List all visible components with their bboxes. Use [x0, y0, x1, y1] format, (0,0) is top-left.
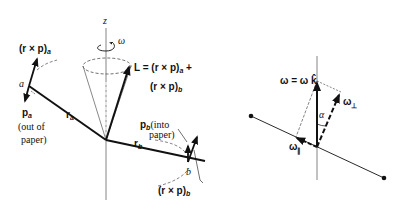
left-diagram: z ω L = (r × p)a + (r × p)b [18, 15, 205, 200]
p-a-vector [25, 86, 29, 101]
omega-rotation-label: ω [118, 35, 125, 46]
construction-line-left [296, 81, 317, 137]
p-b-note-line2: paper) [149, 129, 175, 141]
construction-line-top [317, 81, 341, 92]
r-b-label: rb [134, 138, 143, 150]
p-a-note-line1: (out of [18, 121, 46, 133]
L-label-line2: (r × p)b [150, 81, 183, 93]
diagram-canvas: z ω L = (r × p)a + (r × p)b [0, 0, 405, 211]
rxp-a-vector [29, 59, 37, 86]
orbit-a-dashed [37, 60, 57, 70]
rod-end-right [382, 176, 387, 181]
p-a-note-line2: paper) [21, 134, 47, 146]
right-diagram: ω = ω k̂ ω⊥ ω∥ α [249, 56, 387, 180]
angle-alpha-label: α [319, 109, 325, 120]
cone-ellipse [83, 58, 131, 74]
L-label-line1: L = (r × p)a + [134, 62, 192, 74]
omega-parallel-label: ω∥ [289, 141, 301, 155]
p-a-label: pa [22, 107, 32, 119]
point-a-label: a [19, 78, 24, 89]
L-vector [106, 67, 129, 140]
rxp-a-label: (r × p)a [19, 43, 51, 55]
z-axis-label: z [102, 15, 107, 26]
omega-perp-vector [317, 95, 339, 147]
omega-perp-label: ω⊥ [343, 96, 357, 109]
cone-left-edge [83, 66, 106, 140]
rxp-b-leader [194, 150, 203, 183]
point-b-label: b [186, 166, 191, 177]
rod-end-left [249, 114, 254, 119]
rxp-b-label: (r × p)b [158, 185, 191, 197]
angle-arc [317, 124, 326, 126]
p-b-leader [178, 129, 187, 142]
r-a-label: ra [66, 109, 74, 121]
orbit-b-dashed [155, 140, 185, 152]
omega-label: ω = ω k̂ [280, 74, 317, 86]
